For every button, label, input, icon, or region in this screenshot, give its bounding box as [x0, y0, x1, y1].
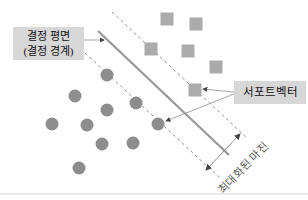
decision-plane-label-line1: 결정 평면	[13, 29, 84, 44]
class-circle-point	[46, 118, 59, 131]
class-circle-point	[130, 97, 143, 110]
class-circle-point	[96, 138, 109, 151]
margin-line-upper	[112, 12, 247, 138]
support-vector-pointer-circle	[166, 94, 234, 121]
decision-boundary-line	[98, 31, 229, 155]
class-circle-point	[101, 104, 114, 117]
class-square-point	[182, 45, 195, 58]
class-circle-point	[81, 119, 94, 132]
class-square-point	[145, 43, 158, 56]
class-circle-point	[69, 90, 82, 103]
support-vector-circle-point	[152, 118, 165, 131]
decision-plane-label: 결정 평면 (결정 경계)	[13, 27, 84, 60]
class-circle-point	[73, 162, 86, 175]
svm-diagram: 결정 평면 (결정 경계) 서포트벡터 최대화된 마진	[0, 0, 308, 200]
class-circle-point	[101, 69, 114, 82]
class-square-point	[190, 18, 203, 31]
decision-plane-label-line2: (결정 경계)	[13, 44, 84, 59]
class-square-point	[210, 61, 223, 74]
class-square-point	[161, 13, 174, 26]
support-vector-pointer-square	[203, 89, 234, 92]
support-vector-label: 서포트벡터	[234, 81, 306, 104]
support-vector-square-point	[189, 84, 202, 97]
class-circle-point	[127, 137, 140, 150]
